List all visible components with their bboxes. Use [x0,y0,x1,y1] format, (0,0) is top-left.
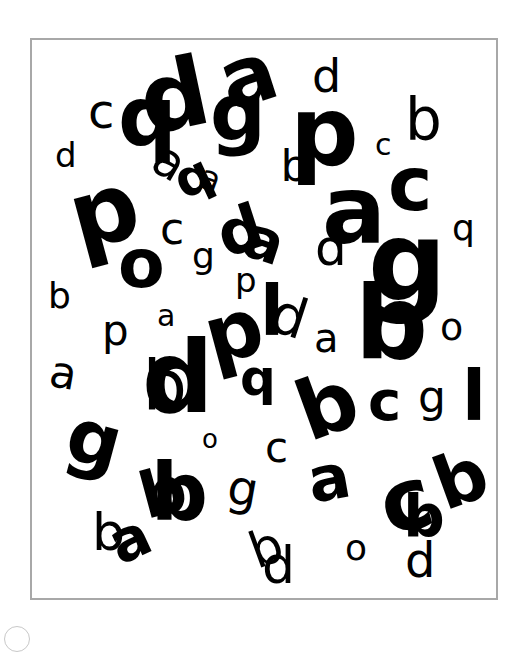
letter-q: q [452,207,475,248]
letter-q: q [240,349,276,407]
corner-circle-icon [4,626,30,652]
letter-g: g [57,390,132,489]
letter-o: o [202,424,218,454]
letter-g: g [223,458,263,518]
letter-q: q [280,147,308,198]
letter-d: d [262,535,295,595]
letter-q: q [151,457,208,550]
letter-g: g [418,371,446,422]
letter-p: p [102,306,129,355]
letter-b: b [48,275,71,316]
letter-d: d [315,219,347,277]
letter-o: o [345,527,367,568]
letter-a: a [302,439,356,518]
letter-c: c [88,83,114,139]
letter-q: q [143,354,187,436]
letter-a: a [46,345,81,400]
letter-g: g [192,235,215,276]
letter-c: c [160,203,184,254]
letter-o: o [118,224,165,303]
letter-o: o [440,305,463,349]
letter-c: c [265,423,288,472]
letter-b: b [355,263,428,382]
letter-l: l [462,355,486,437]
letter-c: c [368,368,401,433]
letter-g: g [210,68,266,158]
letter-d: d [405,532,435,588]
